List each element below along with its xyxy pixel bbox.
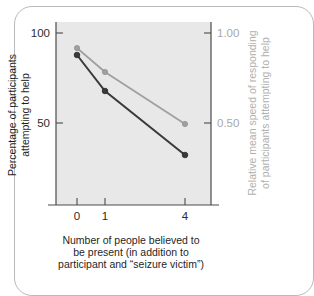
right-tick-label-0-50: 0.50 [217, 117, 239, 129]
left-tick-label-100: 100 [31, 27, 50, 39]
x-axis-caption-line-1: Number of people believed to [62, 234, 199, 246]
series-point-percentage-helping-1 [102, 88, 108, 94]
right-axis-title-line-1: Relative mean speed of responding [246, 30, 258, 195]
series-point-percentage-helping-4 [182, 152, 188, 158]
series-point-relative-speed-0 [74, 45, 79, 50]
left-tick-label-50: 50 [37, 117, 50, 129]
x-tick-label-1: 1 [102, 210, 108, 222]
x-axis-caption-line-3: participant and “seizure victim”) [58, 258, 204, 270]
series-point-relative-speed-1 [102, 69, 107, 74]
series-point-relative-speed-4 [182, 121, 187, 126]
x-tick-label-4: 4 [182, 210, 189, 222]
x-tick-label-0: 0 [74, 210, 80, 222]
left-axis-title-line-2: attempting to help [19, 73, 31, 157]
right-tick-label-1-00: 1.00 [217, 27, 239, 39]
left-axis-title: Percentage of participants attempting to… [6, 54, 31, 176]
x-axis-caption-line-2: be present (in addition to [73, 246, 189, 258]
left-axis-title-line-1: Percentage of participants [6, 54, 18, 176]
series-point-percentage-helping-0 [74, 52, 80, 58]
right-axis-title: Relative mean speed of responding of par… [246, 30, 271, 195]
right-axis-title-line-2: of participants attempting to help [259, 37, 271, 189]
